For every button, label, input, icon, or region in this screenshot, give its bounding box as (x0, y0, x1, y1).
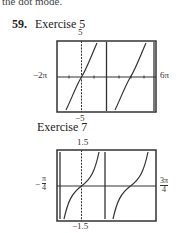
graph2-xmin-denominator: 4 (42, 184, 46, 192)
graph2-ymax-label: 1.5 (77, 137, 88, 147)
graph2-plot (56, 149, 157, 222)
graph2-ymin-label: −1.5 (72, 221, 88, 231)
graph2-xmin-numerator: π (42, 175, 46, 183)
problem-number: 59. (12, 17, 27, 31)
graph2-xmax-fraction: 3π 4 (160, 177, 168, 194)
problem-heading: 59. Exercise 5 (12, 14, 85, 32)
graph1-ymax-label: 5 (78, 27, 83, 37)
graph2-xmin-label: − π 4 (35, 175, 46, 192)
graph2-xmax-numerator: 3π (160, 177, 168, 185)
graph2-xmax-denominator: 4 (162, 186, 166, 194)
graph2-xmin-fraction: π 4 (42, 175, 46, 192)
graph2-xmax-label: 3π 4 (160, 175, 168, 194)
graph1-xmin-label: −2π (33, 70, 47, 80)
graph1-plot (56, 40, 157, 113)
cut-off-text: the dot mode. (2, 0, 62, 7)
graph1-xmax-label: 6π (160, 70, 169, 80)
graph2-xmin-sign: − (35, 179, 40, 189)
exercise-7-title: Exercise 7 (37, 120, 87, 135)
